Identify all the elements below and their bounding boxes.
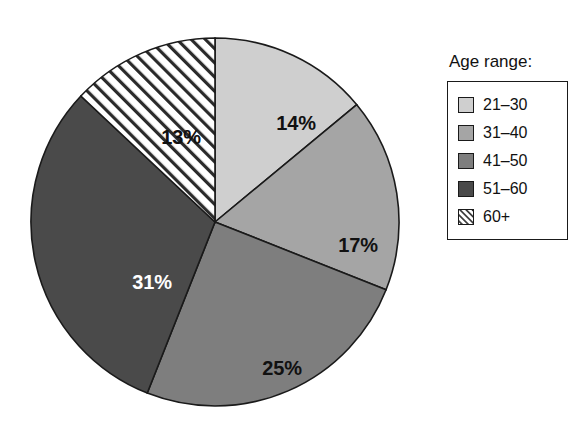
- legend-item-label: 21–30: [483, 96, 528, 114]
- pie-chart-svg: 14%17%25%31%13%: [28, 34, 402, 408]
- legend-item-51-60[interactable]: 51–60: [458, 175, 557, 203]
- legend-title: Age range:: [449, 52, 573, 72]
- pie-slice-label-60+: 13%: [161, 126, 201, 148]
- pie-slice-label-21-30: 14%: [276, 112, 316, 134]
- legend-item-label: 51–60: [483, 180, 528, 198]
- legend-box: 21–3031–4041–5051–6060+: [447, 81, 568, 240]
- pie-slice-label-31-40: 17%: [338, 234, 378, 256]
- legend-item-31-40[interactable]: 31–40: [458, 119, 557, 147]
- legend-item-60+[interactable]: 60+: [458, 203, 557, 231]
- pie-chart-figure: 14%17%25%31%13% Age range: 21–3031–4041–…: [0, 0, 582, 435]
- legend-item-41-50[interactable]: 41–50: [458, 147, 557, 175]
- swatch-41-50: [458, 153, 474, 169]
- pie-slices: [31, 38, 399, 406]
- pie-slice-label-51-60: 31%: [132, 271, 172, 293]
- legend-item-label: 31–40: [483, 124, 528, 142]
- swatch-51-60: [458, 181, 474, 197]
- swatch-21-30: [458, 97, 474, 113]
- swatch-31-40: [458, 125, 474, 141]
- legend-item-label: 60+: [483, 208, 510, 226]
- pie-slice-label-41-50: 25%: [262, 357, 302, 379]
- swatch-60-plus: [458, 209, 474, 225]
- pie-chart: 14%17%25%31%13%: [28, 34, 402, 408]
- legend: Age range: 21–3031–4041–5051–6060+: [447, 52, 573, 240]
- legend-item-label: 41–50: [483, 152, 528, 170]
- legend-item-21-30[interactable]: 21–30: [458, 91, 557, 119]
